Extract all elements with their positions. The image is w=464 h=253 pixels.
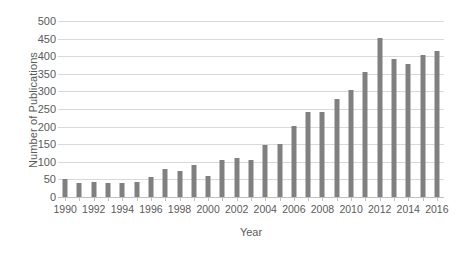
- x-axis-tick: [122, 197, 123, 201]
- x-axis-tick: [394, 197, 395, 201]
- x-axis-tick: [365, 197, 366, 201]
- x-axis-tick: [280, 197, 281, 201]
- x-axis-tick: [294, 197, 295, 201]
- bar-slot: [415, 21, 429, 197]
- bar-slot: [115, 21, 129, 197]
- bar: [320, 112, 325, 197]
- bar-slot: [101, 21, 115, 197]
- x-axis-tick: [380, 197, 381, 201]
- bar-slot: [401, 21, 415, 197]
- y-axis-tick-label: 350: [4, 68, 56, 79]
- x-axis-tick-label: 2016: [417, 203, 457, 215]
- x-axis-tick: [351, 197, 352, 201]
- bar: [420, 55, 425, 197]
- bar-slot: [215, 21, 229, 197]
- bar: [291, 126, 296, 197]
- bar-slot: [358, 21, 372, 197]
- bar: [206, 176, 211, 197]
- y-axis-tick-label: 150: [4, 139, 56, 150]
- bar: [277, 144, 282, 198]
- bar-slot: [201, 21, 215, 197]
- publications-bar-chart: Number of Publications 05010015020025030…: [0, 0, 464, 253]
- x-axis-tick: [251, 197, 252, 201]
- bar-slot: [158, 21, 172, 197]
- y-axis-tick-labels: 050100150200250300350400450500: [0, 0, 56, 253]
- bar-slot: [187, 21, 201, 197]
- y-axis-tick-label: 200: [4, 121, 56, 132]
- bar-slot: [87, 21, 101, 197]
- bar-slot: [373, 21, 387, 197]
- bars-layer: [58, 21, 444, 197]
- y-axis-tick-label: 100: [4, 156, 56, 167]
- bar: [306, 112, 311, 197]
- x-axis-tick: [437, 197, 438, 201]
- bar-slot: [244, 21, 258, 197]
- x-axis-tick-labels: 1990199219941996199820002002200420062008…: [58, 197, 444, 223]
- x-axis-tick: [408, 197, 409, 201]
- bar-slot: [430, 21, 444, 197]
- bar-slot: [315, 21, 329, 197]
- bar-slot: [344, 21, 358, 197]
- bar: [248, 160, 253, 197]
- bar: [77, 183, 82, 197]
- x-axis-tick: [265, 197, 266, 201]
- x-axis-tick: [180, 197, 181, 201]
- bar-slot: [144, 21, 158, 197]
- bar: [406, 64, 411, 197]
- bar: [234, 158, 239, 197]
- x-axis-tick: [222, 197, 223, 201]
- y-axis-tick-label: 50: [4, 174, 56, 185]
- x-axis-tick: [208, 197, 209, 201]
- bar-slot: [387, 21, 401, 197]
- y-axis-tick-label: 250: [4, 104, 56, 115]
- bar-slot: [301, 21, 315, 197]
- bar: [106, 183, 111, 197]
- x-axis-tick: [165, 197, 166, 201]
- bar-slot: [129, 21, 143, 197]
- x-axis-tick: [194, 197, 195, 201]
- bar: [163, 169, 168, 198]
- bar: [349, 90, 354, 197]
- x-axis-tick: [137, 197, 138, 201]
- x-axis-tick: [322, 197, 323, 201]
- bar-slot: [72, 21, 86, 197]
- x-axis-tick: [65, 197, 66, 201]
- x-axis-tick: [94, 197, 95, 201]
- x-axis-tick: [151, 197, 152, 201]
- y-axis-tick-label: 500: [4, 16, 56, 27]
- bar: [220, 160, 225, 197]
- y-axis-tick-label: 400: [4, 51, 56, 62]
- bar: [148, 177, 153, 197]
- bar: [120, 183, 125, 197]
- bar-slot: [287, 21, 301, 197]
- bar-slot: [330, 21, 344, 197]
- bar: [334, 99, 339, 197]
- y-axis-tick-label: 300: [4, 86, 56, 97]
- bar-slot: [58, 21, 72, 197]
- bar: [177, 171, 182, 197]
- bar: [263, 145, 268, 197]
- x-axis-tick: [308, 197, 309, 201]
- bar: [134, 182, 139, 197]
- x-axis-tick: [79, 197, 80, 201]
- x-axis-tick: [108, 197, 109, 201]
- bar: [434, 51, 439, 197]
- bar-slot: [230, 21, 244, 197]
- bar: [363, 72, 368, 197]
- bar: [377, 38, 382, 197]
- x-axis-tick: [337, 197, 338, 201]
- y-axis-tick-label: 450: [4, 33, 56, 44]
- x-axis-tick: [237, 197, 238, 201]
- y-axis-tick-label: 0: [4, 192, 56, 203]
- bar: [191, 165, 196, 197]
- bar-slot: [272, 21, 286, 197]
- bar: [391, 59, 396, 197]
- bar-slot: [172, 21, 186, 197]
- x-axis-tick: [423, 197, 424, 201]
- bar-slot: [258, 21, 272, 197]
- bar: [91, 182, 96, 197]
- bar: [63, 179, 68, 197]
- x-axis-title: Year: [58, 226, 444, 238]
